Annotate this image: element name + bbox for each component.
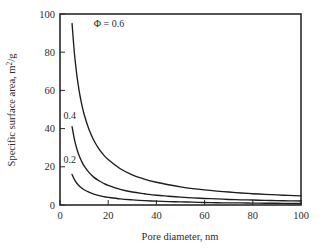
x-tick-label: 40 (151, 210, 162, 221)
y-axis-title: Specific surface area, m2/g (5, 53, 18, 167)
chart-svg: 0 20 40 60 80 100 0 20 40 60 80 100 Pore… (0, 0, 323, 250)
y-tick-label: 40 (45, 123, 56, 134)
x-tick-label: 60 (199, 210, 210, 221)
y-axis-title-main: Specific surface area, m (6, 66, 17, 167)
y-tick-label: 0 (50, 200, 55, 211)
y-tick-label: 100 (39, 9, 55, 20)
curve-label-phi-0-2: 0.2 (64, 154, 77, 165)
curve-label-phi-0-6: Φ = 0.6 (94, 18, 124, 29)
x-tick-label: 100 (293, 210, 309, 221)
y-tick-label: 60 (45, 85, 56, 96)
x-tick-label: 80 (248, 210, 259, 221)
x-tick-labels: 0 20 40 60 80 100 (57, 210, 309, 221)
y-tick-labels: 0 20 40 60 80 100 (39, 9, 55, 211)
chart-figure: 0 20 40 60 80 100 0 20 40 60 80 100 Pore… (0, 0, 323, 250)
x-tick-label: 20 (103, 210, 114, 221)
y-tick-label: 20 (45, 161, 56, 172)
x-axis-title: Pore diameter, nm (142, 231, 219, 242)
x-tick-label: 0 (57, 210, 62, 221)
y-axis-title-tail: /g (6, 53, 17, 62)
y-tick-label: 80 (45, 47, 56, 58)
plot-area-background (60, 14, 301, 205)
curve-label-phi-0-4: 0.4 (64, 110, 77, 121)
